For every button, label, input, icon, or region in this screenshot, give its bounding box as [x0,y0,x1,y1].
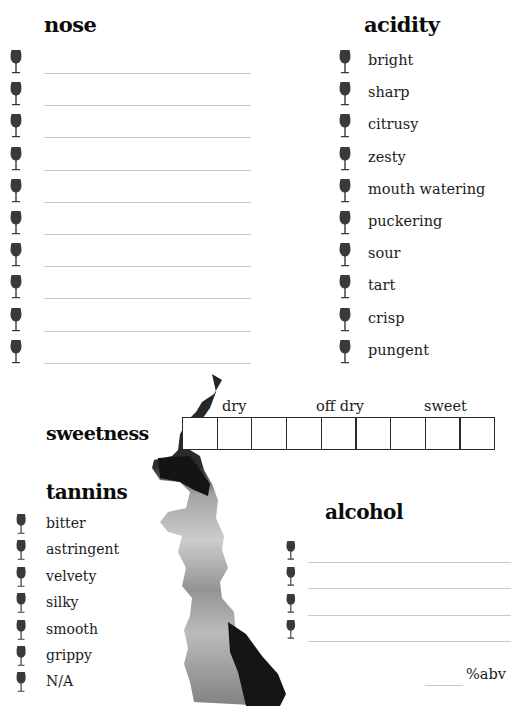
nose-note-line[interactable] [44,331,251,332]
wine-glass-icon [10,82,22,106]
wine-glass-icon [10,340,22,364]
sweetness-box[interactable] [251,417,287,450]
nose-note-line[interactable] [44,298,251,299]
tannins-heading: tannins [46,480,127,504]
sweetness-box[interactable] [182,417,218,450]
wine-glass-icon [339,147,351,171]
nose-note-line[interactable] [44,170,251,171]
wine-glass-icon [10,275,22,299]
acidity-option[interactable]: bright [368,52,413,68]
sweetness-box[interactable] [356,417,392,450]
alcohol-note-line[interactable] [308,615,511,616]
wine-glass-icon [16,672,26,692]
nose-note-line[interactable] [44,363,251,364]
wine-glass-icon [16,514,26,534]
wine-glass-icon [16,620,26,640]
wine-glass-icon [339,114,351,138]
tannin-option[interactable]: smooth [46,621,98,637]
wine-glass-icon [339,308,351,332]
wine-glass-icon [339,243,351,267]
wine-glass-icon [286,567,296,586]
tannin-option[interactable]: silky [46,594,79,610]
wine-glass-icon [10,147,22,171]
sweetness-box[interactable] [425,417,461,450]
wine-glass-icon [339,179,351,203]
nose-note-line[interactable] [44,73,251,74]
alcohol-note-line[interactable] [308,588,511,589]
sweetness-heading: sweetness [46,422,149,444]
acidity-option[interactable]: citrusy [368,116,419,132]
wine-glass-icon [339,340,351,364]
acidity-option[interactable]: pungent [368,342,429,358]
sweetness-box[interactable] [286,417,322,450]
nose-note-line[interactable] [44,234,251,235]
sweetness-label-off-dry: off dry [316,398,364,414]
wine-glass-icon [286,620,296,639]
acidity-option[interactable]: zesty [368,149,406,165]
abv-input-line[interactable] [425,685,463,686]
wine-glass-icon [16,646,26,666]
wine-glass-icon [339,50,351,74]
wine-glass-icon [10,211,22,235]
acidity-option[interactable]: sharp [368,84,410,100]
sweetness-box[interactable] [390,417,426,450]
tannin-option[interactable]: bitter [46,515,86,531]
acidity-option[interactable]: tart [368,277,395,293]
wine-glass-icon [10,179,22,203]
sweetness-box[interactable] [321,417,357,450]
wine-glass-icon [10,308,22,332]
tannin-option[interactable]: N/A [46,673,73,689]
tannin-option[interactable]: velvety [46,568,96,584]
acidity-option[interactable]: mouth watering [368,181,485,197]
wine-glass-icon [10,243,22,267]
acidity-option[interactable]: puckering [368,213,442,229]
acidity-heading: acidity [364,12,439,37]
nose-note-line[interactable] [44,137,251,138]
nose-note-line[interactable] [44,266,251,267]
abv-suffix: %abv [466,666,506,682]
wine-glass-icon [16,540,26,560]
wine-glass-icon [10,50,22,74]
wine-glass-icon [286,594,296,613]
acidity-option[interactable]: crisp [368,310,404,326]
nose-note-line[interactable] [44,105,251,106]
sweetness-box[interactable] [217,417,253,450]
wine-glass-icon [339,211,351,235]
nose-note-line[interactable] [44,202,251,203]
alcohol-note-line[interactable] [308,562,511,563]
wine-glass-icon [16,593,26,613]
alcohol-heading: alcohol [325,500,403,524]
tannin-option[interactable]: astringent [46,541,119,557]
sweetness-label-dry: dry [222,398,246,414]
sweetness-box[interactable] [460,417,496,450]
nose-heading: nose [44,12,96,37]
sweetness-label-sweet: sweet [424,398,467,414]
wine-glass-icon [339,82,351,106]
wine-glass-icon [16,567,26,587]
alcohol-note-line[interactable] [308,641,511,642]
acidity-option[interactable]: sour [368,245,400,261]
wine-glass-icon [10,114,22,138]
wine-glass-icon [339,275,351,299]
wine-glass-icon [286,541,296,560]
tannin-option[interactable]: grippy [46,647,92,663]
